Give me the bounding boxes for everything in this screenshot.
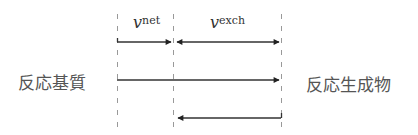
diagram-graphics (0, 0, 418, 135)
rate-superscript: net (142, 14, 160, 27)
substrate-label: 反応基質 (18, 69, 86, 94)
rate-symbol: v (210, 13, 219, 32)
flux-diagram: vnet vexch 反応基質 反応生成物 (0, 0, 418, 135)
product-label: 反応生成物 (306, 71, 391, 96)
rate-symbol: v (133, 13, 142, 32)
v-net-label: vnet (133, 13, 160, 32)
rate-superscript: exch (219, 14, 245, 27)
v-exch-label: vexch (210, 13, 245, 32)
